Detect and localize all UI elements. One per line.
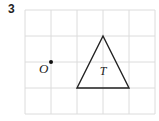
grid-diagram: O T (0, 0, 159, 121)
triangle-T-label: T (100, 64, 108, 78)
point-O (49, 60, 53, 64)
point-O-label: O (39, 61, 49, 76)
